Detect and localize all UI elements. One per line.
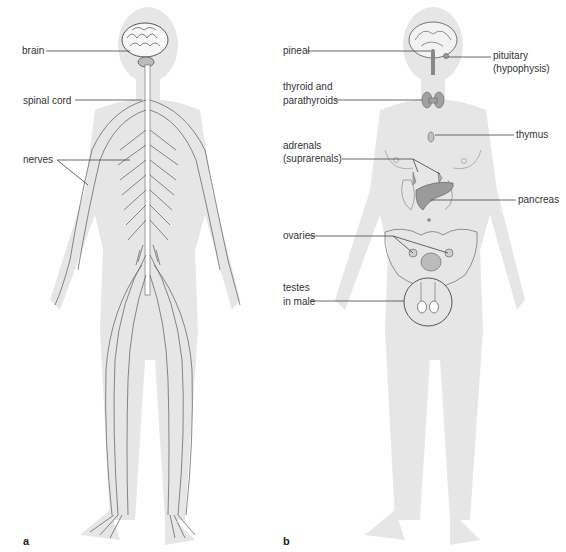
label-suprarenals: (suprarenals) [283,152,342,165]
label-ovaries: ovaries [283,229,315,242]
navel-icon [427,218,431,222]
panel-b-endocrine-system: pineal pituitary (hypophysis) thyroid an… [283,0,566,552]
label-nerves: nerves [23,153,53,166]
panel-letter-a: a [23,535,29,547]
label-thymus: thymus [516,128,548,141]
spinal-cord-shape [145,65,150,295]
testes-inset [404,278,452,326]
thymus-icon [428,132,434,142]
panel-letter-b: b [283,535,290,547]
label-pineal: pineal [283,44,310,57]
label-adrenals: adrenals [283,139,321,152]
label-testes: testes [283,281,310,294]
label-pituitary: pituitary [493,49,528,62]
label-in-male: in male [283,295,315,308]
label-thyroid: thyroid and [283,80,332,93]
label-pancreas: pancreas [518,193,559,206]
label-parathyroids: parathyroids [283,94,338,107]
label-hypophysis: (hypophysis) [493,62,550,75]
label-brain: brain [22,44,44,57]
label-spinal-cord: spinal cord [23,94,71,107]
panel-a-nervous-system: brain spinal cord nerves a [0,0,283,552]
body-silhouette [335,7,525,545]
nervous-system-illustration [0,0,283,552]
pineal-icon [431,49,435,53]
pituitary-icon [444,54,449,59]
